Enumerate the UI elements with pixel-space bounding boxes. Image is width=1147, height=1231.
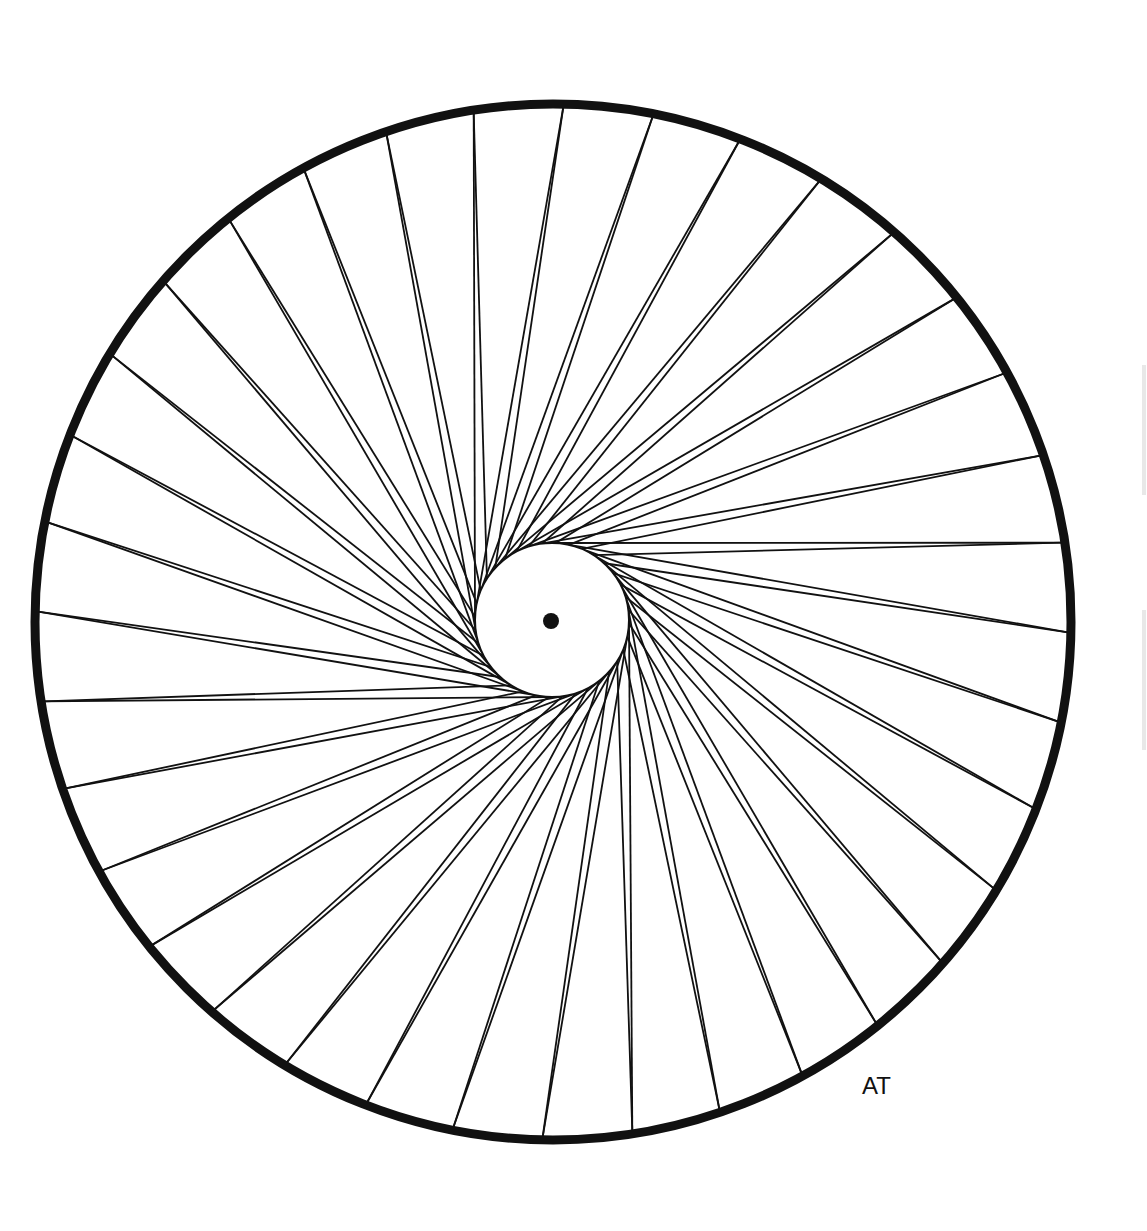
spoke-line [474,113,475,620]
scan-artifact [1142,365,1146,495]
spoke-line [601,561,994,889]
spoke-line [611,570,941,961]
spoke-line [230,221,486,659]
spoke-line [539,456,1041,545]
scan-artifact [1142,610,1146,750]
spoke-line [493,181,819,570]
spoke-line [38,612,539,696]
center-dot [543,613,559,629]
spoke-line [287,669,612,1063]
spoke-line [543,633,628,1137]
spoke-line [503,234,892,561]
spoke-line [165,283,493,670]
spoke-line [214,679,602,1010]
artist-signature: AT [862,1072,891,1099]
wheel-drawing: AT [0,0,1147,1231]
